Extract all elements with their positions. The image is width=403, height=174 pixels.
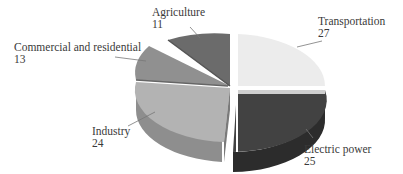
label-commercial-value: 13 [14,53,141,65]
slice-transportation [237,34,325,86]
label-agriculture-value: 11 [152,18,205,30]
label-industry: Industry 24 [92,125,130,149]
label-commercial-residential: Commercial and residential 13 [14,41,141,65]
label-commercial-name: Commercial and residential [14,41,141,53]
label-agriculture-name: Agriculture [152,6,205,18]
label-transportation-value: 27 [318,27,385,39]
label-agriculture: Agriculture 11 [152,6,205,30]
label-industry-value: 24 [92,137,130,149]
label-electric-power: Electric power 25 [304,143,371,167]
label-transportation: Transportation 27 [318,15,385,39]
label-industry-name: Industry [92,125,130,137]
label-transportation-name: Transportation [318,15,385,27]
left-slice-group [135,33,230,162]
label-electric-power-value: 25 [304,155,371,167]
label-electric-power-name: Electric power [304,143,371,155]
